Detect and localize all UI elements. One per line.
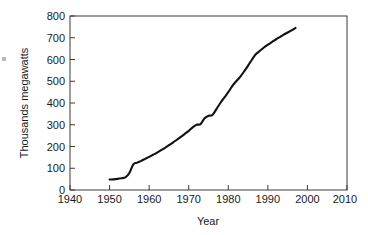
y-axis-tick-labels: 0 100 200 300 400 500 600 700 800 <box>47 10 65 196</box>
y-tick-label-700: 700 <box>47 32 65 44</box>
y-tick-label-200: 200 <box>47 141 65 153</box>
x-tick-label-1970: 1970 <box>176 193 200 205</box>
x-tick-label-2000: 2000 <box>295 193 319 205</box>
y-tick-label-600: 600 <box>47 54 65 66</box>
x-tick-label-1980: 1980 <box>216 193 240 205</box>
plot-frame-group <box>70 16 347 190</box>
y-tick-label-400: 400 <box>47 97 65 109</box>
x-axis-ticks <box>70 185 347 190</box>
plot-frame <box>70 16 347 190</box>
x-tick-label-1940: 1940 <box>58 193 82 205</box>
x-tick-label-1990: 1990 <box>256 193 280 205</box>
x-tick-label-1960: 1960 <box>137 193 161 205</box>
y-tick-label-500: 500 <box>47 75 65 87</box>
x-axis-tick-labels: 1940 1950 1960 1970 1980 1990 2000 2010 <box>58 193 357 205</box>
scan-artifact <box>2 57 6 61</box>
data-series-line <box>110 28 296 180</box>
x-axis-title: Year <box>197 215 220 227</box>
y-tick-label-300: 300 <box>47 119 65 131</box>
y-tick-label-800: 800 <box>47 10 65 22</box>
line-chart-figure: 0 100 200 300 400 500 600 700 800 1940 1… <box>0 0 368 235</box>
y-axis-ticks <box>70 16 75 190</box>
x-tick-label-1950: 1950 <box>97 193 121 205</box>
y-axis-title: Thousands megawatts <box>18 47 30 158</box>
y-tick-label-100: 100 <box>47 162 65 174</box>
x-tick-label-2010: 2010 <box>333 193 357 205</box>
